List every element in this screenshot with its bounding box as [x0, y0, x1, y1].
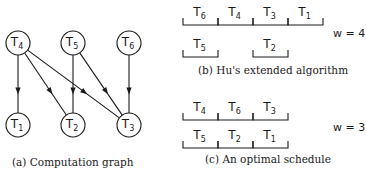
task-slot-T2: T2 — [253, 37, 288, 57]
node-T3: T3 — [117, 113, 141, 137]
graph-edges — [15, 50, 131, 118]
task-label: T3 — [262, 5, 275, 21]
schedule-c-caption: (c) An optimal schedule — [205, 153, 331, 165]
task-label: T4 — [192, 100, 205, 116]
node-T6: T6 — [117, 31, 141, 55]
edge-T4-T2 — [25, 53, 67, 115]
figure-canvas: T4T5T6T1T2T3 (a) Computation graph T6T4T… — [0, 0, 366, 181]
width-label-b: w = 4 — [333, 27, 365, 40]
arrowhead-icon — [80, 88, 87, 94]
task-slot-T4: T4 — [218, 5, 253, 25]
task-label: T5 — [192, 128, 205, 144]
task-slot-T5: T5 — [183, 128, 218, 148]
arrowhead-icon — [126, 87, 131, 94]
arrowhead-icon — [15, 87, 20, 94]
task-slot-T3: T3 — [253, 5, 288, 25]
schedule-hu-extended: T6T4T3T1T5T2 — [183, 5, 323, 57]
task-slot-T2: T2 — [218, 128, 253, 148]
task-slot-T6: T6 — [218, 100, 253, 120]
schedule-optimal: T4T6T3T5T2T1 — [183, 100, 288, 148]
task-slot-T6: T6 — [183, 5, 218, 25]
task-label: T2 — [227, 128, 240, 144]
schedule-b-caption: (b) Hu's extended algorithm — [198, 64, 348, 76]
width-label-c: w = 3 — [333, 121, 365, 134]
task-slot-T4: T4 — [183, 100, 218, 120]
task-label: T2 — [262, 37, 275, 53]
task-slot-T1: T1 — [253, 128, 288, 148]
task-label: T1 — [262, 128, 275, 144]
node-T2: T2 — [61, 113, 85, 137]
arrowhead-icon — [46, 87, 52, 94]
task-label: T3 — [262, 100, 275, 116]
node-T5: T5 — [61, 31, 85, 55]
arrowhead-icon — [102, 87, 108, 94]
task-label: T1 — [297, 5, 310, 21]
task-label: T5 — [192, 37, 205, 53]
task-label: T6 — [192, 5, 205, 21]
node-T4: T4 — [6, 31, 30, 55]
task-slot-T1: T1 — [288, 5, 323, 25]
arrowhead-icon — [70, 87, 75, 94]
graph-caption: (a) Computation graph — [12, 156, 134, 168]
task-slot-T3: T3 — [253, 100, 288, 120]
task-slot-T5: T5 — [183, 37, 218, 57]
edge-T5-T3 — [80, 53, 122, 115]
node-T1: T1 — [6, 113, 30, 137]
task-label: T6 — [227, 100, 240, 116]
task-label: T4 — [227, 5, 240, 21]
